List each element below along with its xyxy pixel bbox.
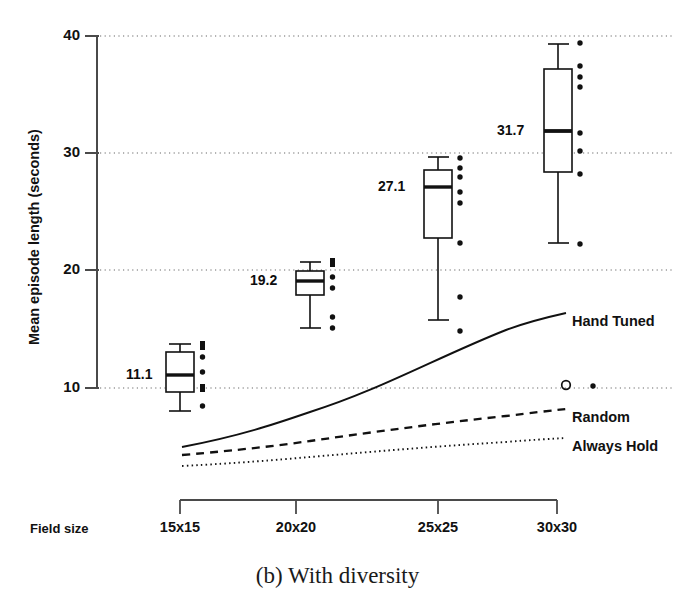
outlier-dot <box>200 354 205 359</box>
outlier-dot <box>200 403 205 408</box>
figure-container: 40 30 20 10 Mean episode length (seconds… <box>0 0 675 604</box>
outlier-dot <box>577 40 582 45</box>
outliers-20x20 <box>330 258 335 331</box>
boxplot-20x20 <box>296 262 324 328</box>
outlier-dot <box>577 84 582 89</box>
box-iqr <box>166 352 194 392</box>
outlier-dot <box>330 285 335 290</box>
outlier-dot <box>457 189 462 194</box>
outlier-dot <box>200 384 205 392</box>
box-value-label-20x20: 19.2 <box>250 272 277 288</box>
boxplot-15x15 <box>166 344 194 411</box>
box-value-label-30x30: 31.7 <box>497 122 524 138</box>
boxplot-chart <box>0 0 675 604</box>
outliers-15x15 <box>200 341 205 409</box>
line-hand-tuned <box>182 313 566 447</box>
y-axis <box>85 36 99 388</box>
x-tick-label-20x20: 20x20 <box>256 519 336 535</box>
figure-caption: (b) With diversity <box>0 563 675 589</box>
outlier-dot <box>200 369 205 374</box>
box-iqr <box>424 170 452 238</box>
outlier-dot <box>577 74 582 79</box>
y-tick-label-40: 40 <box>40 26 80 43</box>
outlier-dot <box>457 294 462 299</box>
outlier-dot <box>330 325 335 330</box>
boxplot-25x25 <box>424 157 452 320</box>
outlier-dot <box>457 240 462 245</box>
legend-label-always-hold: Always Hold <box>572 438 658 454</box>
outlier-dot <box>457 155 462 160</box>
x-axis-group-label: Field size <box>30 521 89 536</box>
x-tick-label-15x15: 15x15 <box>140 519 220 535</box>
box-value-label-15x15: 11.1 <box>126 366 152 382</box>
x-tick-label-30x30: 30x30 <box>517 519 597 535</box>
outlier-dot <box>457 328 462 333</box>
outlier-dot <box>577 171 582 176</box>
extra-open-circle <box>562 381 571 390</box>
outliers-25x25 <box>457 155 462 333</box>
legend-label-hand-tuned: Hand Tuned <box>572 313 655 329</box>
line-random <box>182 409 566 455</box>
y-tick-label-30: 30 <box>40 143 80 160</box>
outlier-dot <box>330 314 335 319</box>
outlier-dot <box>457 200 462 205</box>
box-iqr <box>296 271 324 295</box>
extra-filled-dot <box>590 383 595 388</box>
outlier-dot <box>200 341 205 350</box>
box-value-label-25x25: 27.1 <box>378 178 405 194</box>
outlier-dot <box>457 165 462 170</box>
outlier-dot <box>577 63 582 68</box>
boxplot-30x30 <box>544 44 572 243</box>
outlier-dot <box>330 258 335 267</box>
outlier-dot <box>577 148 582 153</box>
y-tick-label-10: 10 <box>40 378 80 395</box>
gridlines <box>100 36 672 388</box>
outlier-dot <box>577 241 582 246</box>
legend-label-random: Random <box>572 409 630 425</box>
outlier-dot <box>457 174 462 179</box>
outlier-dot <box>330 274 335 279</box>
box-iqr <box>544 69 572 172</box>
x-axis-bracket <box>180 500 557 514</box>
y-axis-title: Mean episode length (seconds) <box>26 129 42 345</box>
outlier-dot <box>577 130 582 135</box>
y-tick-label-20: 20 <box>40 260 80 277</box>
x-tick-label-25x25: 25x25 <box>398 519 478 535</box>
line-always-hold <box>182 438 566 466</box>
